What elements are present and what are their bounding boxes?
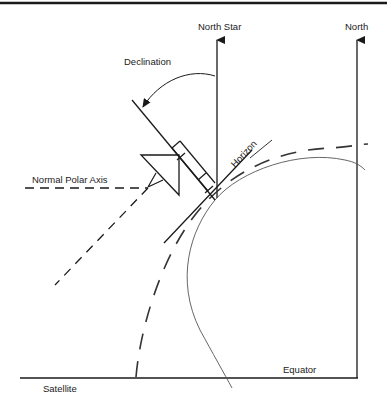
polar-mount-diagram: North Star North Declination Normal Pola… [0,0,387,410]
label-north: North [345,21,368,32]
declination-arc [143,74,215,107]
mount-tie-3 [198,173,206,180]
label-declination: Declination [124,56,171,67]
diagram-canvas: North Star North Declination Normal Pola… [0,0,387,410]
dish-pointing-line [55,188,148,285]
satellite-orbit-arc [136,144,368,377]
label-normal-polar-axis: Normal Polar Axis [32,174,108,185]
label-horizon: Horizon [228,138,258,169]
mount-tube-outer [180,141,215,183]
label-north-star: North Star [198,21,241,32]
mount-tie-1 [172,141,180,148]
label-satellite: Satellite [43,383,77,394]
label-equator: Equator [283,364,316,375]
earth-curve-side [187,200,232,388]
